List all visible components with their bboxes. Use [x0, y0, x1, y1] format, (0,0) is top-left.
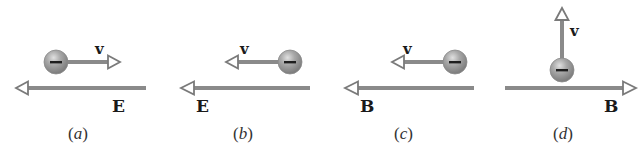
negative-charge-particle-icon	[443, 50, 467, 74]
negative-charge-particle-icon	[44, 50, 68, 74]
field-label: B	[604, 96, 618, 116]
field-label: B	[360, 96, 374, 116]
panel-c: v B (c)	[345, 40, 474, 143]
magnetic-field-arrow-right-icon	[505, 82, 636, 95]
velocity-arrow-up-icon	[556, 8, 569, 60]
velocity-label: v	[569, 22, 580, 40]
magnetic-field-arrow-left-icon	[345, 82, 474, 95]
negative-charge-particle-icon	[278, 50, 302, 74]
velocity-label: v	[94, 40, 105, 58]
field-label: E	[112, 96, 125, 116]
physics-figure: v E (a) v E (b)	[0, 0, 641, 152]
velocity-label: v	[239, 40, 250, 58]
panel-b: v E (b)	[181, 40, 310, 143]
electric-field-arrow-left-icon	[181, 82, 310, 95]
panel-label: (c)	[394, 124, 413, 143]
panel-d: v B (d)	[505, 8, 636, 143]
electric-field-arrow-left-icon	[16, 82, 146, 95]
negative-charge-particle-icon	[550, 58, 574, 82]
velocity-arrow-right-icon	[64, 56, 120, 69]
panel-label: (a)	[68, 124, 88, 143]
velocity-arrow-left-icon	[226, 56, 280, 69]
panel-a: v E (a)	[16, 40, 146, 143]
field-label: E	[196, 96, 209, 116]
panel-label: (b)	[233, 124, 253, 143]
velocity-label: v	[402, 40, 413, 58]
panel-label: (d)	[553, 124, 573, 143]
velocity-arrow-left-icon	[392, 56, 446, 69]
